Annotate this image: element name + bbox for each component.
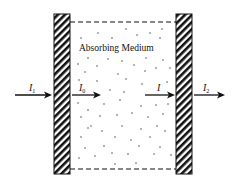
entering-arrow [72, 92, 101, 99]
label-incident-intensity: I1 [28, 82, 35, 94]
label-exiting-intensity: I [156, 82, 161, 93]
left-wall [54, 14, 70, 174]
absorption-diagram: Absorbing Medium I1 I0 I I2 [0, 0, 237, 184]
transmitted-arrow [194, 92, 225, 99]
label-transmitted-intensity: I2 [202, 82, 209, 94]
medium-label: Absorbing Medium [79, 43, 154, 53]
right-wall [176, 14, 192, 174]
label-entering-intensity: I0 [78, 82, 85, 94]
